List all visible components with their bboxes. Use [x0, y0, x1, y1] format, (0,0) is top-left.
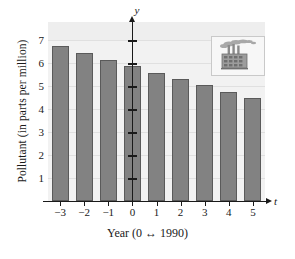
bar [196, 85, 213, 201]
y-tick-label: 5 [30, 81, 44, 92]
y-tick-mark [128, 86, 137, 88]
x-tick-label: 0 [119, 206, 145, 218]
y-axis-variable-label: y [134, 4, 139, 16]
bar [148, 73, 165, 202]
x-tick-label: 1 [144, 206, 170, 218]
x-axis-caption: Year (0 ↔ 1990) [0, 226, 295, 241]
factory-icon-inset [211, 36, 265, 76]
x-tick-label: 4 [216, 206, 242, 218]
y-tick-label: 3 [30, 127, 44, 138]
bar [52, 46, 69, 201]
bar [100, 60, 117, 201]
y-tick-mark [128, 155, 137, 157]
x-tick-label: −1 [95, 206, 121, 218]
x-tick-label: 2 [168, 206, 194, 218]
x-tick-label: −2 [71, 206, 97, 218]
y-tick-mark [128, 132, 137, 134]
x-tick-label: 3 [192, 206, 218, 218]
y-tick-mark [128, 178, 137, 180]
y-axis-line [132, 22, 133, 202]
y-tick-mark [128, 109, 137, 111]
bar [172, 79, 189, 201]
x-tick-label: −3 [47, 206, 73, 218]
factory-icon [212, 37, 262, 73]
y-tick-label: 1 [30, 173, 44, 184]
x-tick-label: 5 [240, 206, 266, 218]
y-tick-label: 4 [30, 104, 44, 115]
x-axis-line [43, 201, 268, 202]
x-axis-arrowhead [266, 198, 272, 204]
x-axis-variable-label: t [274, 195, 277, 207]
y-tick-mark [128, 63, 137, 65]
pollutant-bar-chart-figure: Pollutant (in parts per million) 1234567… [0, 0, 295, 259]
y-axis-arrowhead [129, 16, 135, 22]
bar [220, 92, 237, 201]
y-axis-tick-labels: 1234567 [28, 0, 44, 259]
bar [76, 53, 93, 201]
y-tick-label: 7 [30, 35, 44, 46]
y-axis-title: Pollutant (in parts per million) [16, 26, 28, 196]
y-tick-mark [128, 40, 137, 42]
y-tick-label: 6 [30, 58, 44, 69]
bar [244, 98, 261, 201]
y-tick-label: 2 [30, 150, 44, 161]
